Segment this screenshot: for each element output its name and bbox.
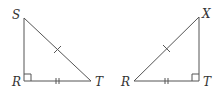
right-angle-mark-r [24,74,31,81]
triangle-xrt: X R T [120,7,212,89]
right-angle-mark-t [192,74,199,81]
triangle-srt: S R T [11,8,104,89]
vertex-label-t: T [203,75,212,89]
congruent-right-triangles-diagram: S R T X R T [0,0,223,91]
vertex-label-t: T [95,75,104,89]
vertex-label-s: S [12,8,20,22]
vertex-label-r: R [120,75,130,89]
vertex-label-r: R [11,75,21,89]
vertex-label-x: X [201,7,211,21]
